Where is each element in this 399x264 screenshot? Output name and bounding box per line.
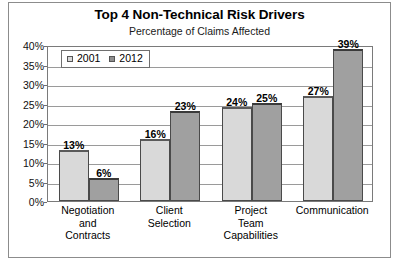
bar-group: 16%23% (130, 47, 212, 201)
x-axis-category-line: Team (210, 217, 292, 230)
bar-2012-1[interactable]: 6% (89, 178, 119, 201)
x-axis-category-label: NegotiationandContracts (47, 204, 129, 242)
x-axis-category-line: and (47, 217, 129, 230)
plot-area: 13%6%16%23%24%25%27%39% (47, 46, 373, 202)
legend-label: 2001 (77, 53, 100, 64)
x-axis-category-line: Capabilities (210, 229, 292, 242)
legend-swatch-icon (109, 56, 115, 62)
y-axis-tick-label: 25% (0, 99, 44, 111)
x-axis-category-line: Contracts (47, 229, 129, 242)
y-axis-tick-mark (44, 202, 47, 203)
x-axis-category-line: Negotiation (47, 204, 129, 217)
bar-value-label: 39% (338, 38, 359, 50)
x-axis-category-line: Communication (292, 204, 374, 217)
bar-2001-1[interactable]: 13% (59, 150, 89, 201)
x-axis-category-line: Project (210, 204, 292, 217)
bar-2001-3[interactable]: 24% (222, 107, 252, 201)
x-axis-category-label: ProjectTeamCapabilities (210, 204, 292, 242)
y-axis-tick-label: 0% (0, 196, 44, 208)
bar-value-label: 6% (96, 167, 111, 179)
legend-swatch-icon (67, 56, 73, 62)
x-axis-category-label: Communication (292, 204, 374, 217)
x-axis-category-line: Client (129, 204, 211, 217)
y-axis-tick-label: 10% (0, 157, 44, 169)
bar-2012-3[interactable]: 25% (252, 103, 282, 201)
x-axis-category-label: ClientSelection (129, 204, 211, 229)
y-axis: 0%5%10%15%20%25%30%35%40% (0, 46, 44, 202)
y-axis-tick-label: 40% (0, 40, 44, 52)
chart-legend: 20012012 (61, 50, 150, 68)
bar-value-label: 27% (308, 85, 329, 97)
bar-2001-4[interactable]: 27% (303, 96, 333, 201)
legend-label: 2012 (119, 53, 142, 64)
y-axis-tick-label: 5% (0, 177, 44, 189)
y-axis-tick-label: 20% (0, 118, 44, 130)
y-axis-tick-label: 35% (0, 60, 44, 72)
chart-subtitle: Percentage of Claims Affected (0, 25, 399, 37)
legend-entry-2001[interactable]: 2001 (67, 53, 100, 64)
bar-group: 24%25% (211, 47, 293, 201)
bar-value-label: 23% (175, 100, 196, 112)
y-axis-tick-label: 15% (0, 138, 44, 150)
bar-value-label: 24% (226, 96, 247, 108)
bar-value-label: 16% (145, 128, 166, 140)
bar-group: 27%39% (293, 47, 375, 201)
bar-value-label: 25% (256, 92, 277, 104)
bar-group: 13%6% (48, 47, 130, 201)
bar-2012-2[interactable]: 23% (170, 111, 200, 201)
bar-2001-2[interactable]: 16% (140, 139, 170, 201)
x-axis: NegotiationandContractsClientSelectionPr… (47, 204, 373, 260)
x-axis-category-line: Selection (129, 217, 211, 230)
chart-container: Top 4 Non-Technical Risk Drivers Percent… (0, 0, 399, 264)
bar-2012-4[interactable]: 39% (333, 49, 363, 201)
y-axis-tick-label: 30% (0, 79, 44, 91)
bar-value-label: 13% (63, 139, 84, 151)
chart-title: Top 4 Non-Technical Risk Drivers (0, 7, 399, 22)
legend-entry-2012[interactable]: 2012 (109, 53, 142, 64)
